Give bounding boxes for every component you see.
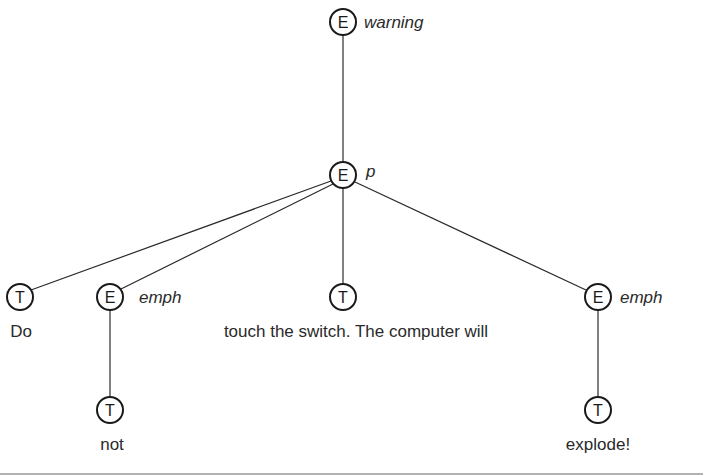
diagram-svg: E warning E p T Do E emph T touch the sw… [0,0,703,476]
node-type-letter: T [105,402,115,419]
node-type-letter: T [15,289,25,306]
node-type-letter: E [338,14,349,31]
tag-name-label: warning [364,13,424,32]
tag-name-label: emph [620,288,663,307]
node-text-not: T not [97,397,124,454]
node-type-letter: T [593,402,603,419]
node-text-touch: T touch the switch. The computer will [224,284,488,341]
node-warning: E warning [330,9,424,35]
text-content-label: not [100,435,124,454]
node-text-do: T Do [7,284,33,341]
tag-name-label: emph [139,288,182,307]
node-p: E p [330,162,375,189]
edges [31,35,598,397]
node-type-letter: E [593,289,604,306]
text-content-label: touch the switch. The computer will [224,322,488,341]
tag-name-label: p [365,162,375,181]
text-content-label: Do [10,322,32,341]
node-type-letter: E [105,289,116,306]
node-type-letter: T [338,289,348,306]
node-text-explode: T explode! [566,397,630,454]
node-type-letter: E [338,167,349,184]
text-content-label: explode! [566,435,630,454]
edge-p-emph2 [355,182,586,290]
dom-tree-diagram: E warning E p T Do E emph T touch the sw… [0,0,703,476]
node-emph-2: E emph [585,284,663,310]
node-emph-1: E emph [97,284,182,310]
edge-p-emph1 [121,184,333,289]
edge-p-do [31,181,331,290]
